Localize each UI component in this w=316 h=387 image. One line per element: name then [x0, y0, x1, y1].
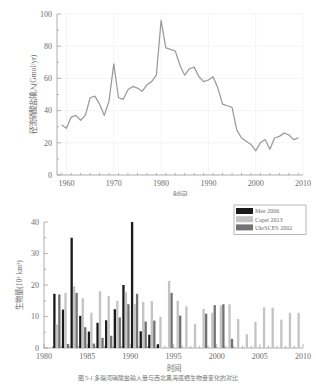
bar: [231, 339, 233, 348]
bar: [53, 294, 55, 348]
bar: [151, 301, 153, 348]
svg-text:1970: 1970: [106, 179, 122, 188]
svg-text:2000: 2000: [209, 352, 225, 361]
gridlines-group: [57, 14, 303, 175]
bar: [177, 301, 179, 348]
bars-group: [53, 222, 300, 348]
bar: [140, 331, 142, 348]
bar: [88, 332, 90, 348]
bar: [289, 313, 291, 348]
svg-text:100: 100: [40, 10, 52, 19]
bar: [168, 281, 170, 348]
svg-text:1995: 1995: [166, 352, 182, 361]
figure-caption: 图 5-1 多瑙河硝酸盐输入量与西北黑海底栖生物量变化的对比: [0, 374, 316, 382]
bar: [114, 309, 116, 348]
x-axis-title: 时间: [167, 363, 181, 373]
bar: [101, 338, 103, 348]
svg-text:1990: 1990: [122, 352, 138, 361]
bar: [73, 286, 75, 348]
bar: [79, 316, 81, 348]
bar: [71, 238, 73, 348]
bar: [297, 313, 299, 348]
bar: [136, 294, 138, 348]
svg-text:1960: 1960: [58, 179, 74, 188]
axes-group: [57, 14, 303, 175]
svg-text:40: 40: [31, 218, 39, 227]
legend-label: Capet 2013: [255, 217, 283, 223]
svg-text:40: 40: [44, 106, 52, 115]
bar: [131, 222, 133, 348]
svg-text:80: 80: [44, 42, 52, 51]
x-tick-labels: 196019701980199020002010: [58, 179, 311, 188]
bar: [157, 344, 159, 348]
bar: [142, 302, 144, 348]
bar: [272, 308, 274, 348]
bar: [64, 293, 66, 348]
bar: [280, 320, 282, 348]
svg-text:2010: 2010: [295, 352, 311, 361]
figure-container: 020406080100 196019701980199020002010 径流…: [0, 0, 316, 387]
bar: [125, 292, 127, 348]
bar: [214, 305, 216, 348]
bar: [222, 304, 224, 348]
y-tick-labels: 010203040: [31, 218, 39, 353]
legend-swatch: [236, 224, 253, 230]
bar: [122, 285, 124, 348]
bar: [246, 334, 248, 348]
bar: [110, 336, 112, 348]
bar: [148, 335, 150, 348]
svg-text:1985: 1985: [79, 352, 95, 361]
nitrate-runoff-chart: 020406080100 196019701980199020002010 径流…: [0, 0, 316, 196]
bar: [211, 313, 213, 348]
bar: [202, 309, 204, 348]
bar: [237, 319, 239, 348]
bar: [220, 305, 222, 348]
legend-swatch: [236, 208, 253, 214]
svg-text:30: 30: [31, 249, 39, 258]
bar: [159, 317, 161, 348]
bar: [145, 322, 147, 348]
bar: [170, 293, 172, 348]
bar: [119, 317, 121, 348]
svg-text:1980: 1980: [153, 179, 169, 188]
bar: [90, 313, 92, 348]
nitrate-runoff-svg: 020406080100 196019701980199020002010 径流…: [0, 0, 316, 196]
bar: [153, 321, 155, 348]
svg-text:2010: 2010: [295, 179, 311, 188]
bar: [67, 344, 69, 348]
svg-text:1980: 1980: [36, 352, 52, 361]
benthic-biomass-svg: 010203040 1980198519901995200020052010 生…: [0, 196, 316, 387]
bar: [84, 327, 86, 348]
y-axis-title: 生物量(10³ km³): [14, 260, 24, 310]
legend-label: Mee 2006: [255, 208, 279, 214]
bar: [185, 306, 187, 348]
x-tick-labels: 1980198519901995200020052010: [36, 352, 311, 361]
benthic-biomass-chart: 010203040 1980198519901995200020052010 生…: [0, 196, 316, 387]
bar: [108, 296, 110, 348]
svg-text:2005: 2005: [252, 352, 268, 361]
nitrate-runoff-line: [62, 20, 299, 150]
legend-label: UkrSCES 2002: [255, 225, 292, 231]
y-axis-title: 径流硝酸盐输入(Gmol/yr): [28, 54, 38, 134]
svg-text:1990: 1990: [200, 179, 216, 188]
bar: [82, 298, 84, 348]
bar: [62, 310, 64, 348]
bar: [58, 294, 60, 348]
bar: [228, 304, 230, 348]
y-tick-labels: 020406080100: [40, 10, 52, 180]
bar: [263, 307, 265, 348]
svg-text:0: 0: [48, 171, 52, 180]
svg-text:20: 20: [44, 139, 52, 148]
svg-text:60: 60: [44, 74, 52, 83]
bar: [205, 314, 207, 348]
legend-swatch: [236, 216, 253, 222]
bar: [179, 316, 181, 348]
bar: [194, 324, 196, 348]
svg-text:20: 20: [31, 281, 39, 290]
bar: [75, 293, 77, 348]
bar: [93, 344, 95, 348]
bar: [116, 301, 118, 348]
bar: [96, 323, 98, 348]
bar: [133, 304, 135, 348]
svg-text:2000: 2000: [248, 179, 264, 188]
